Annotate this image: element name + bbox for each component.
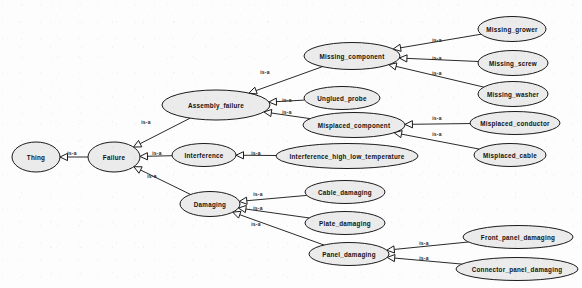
edge-label-front_panel_damaging-to-panel_damaging: is-a — [419, 240, 428, 246]
node-interference_hlt[interactable]: Interference_high_low_temperature — [276, 144, 418, 169]
edge-front_panel_damaging-to-panel_damaging — [394, 242, 468, 249]
isa-arrowhead-icon — [233, 211, 241, 218]
isa-arrowhead-icon — [405, 121, 413, 128]
node-misplaced_component[interactable]: Misplaced_component — [303, 113, 405, 138]
node-connector_panel_damaging[interactable]: Connector_panel_damaging — [456, 258, 578, 281]
node-missing_washer[interactable]: Missing_washer — [478, 82, 548, 107]
node-label-panel_damaging: Panel_damaging — [322, 251, 376, 259]
edge-label-interference-to-failure: is-a — [152, 150, 161, 156]
isa-arrowhead-icon — [236, 152, 244, 159]
edge-missing_screw-to-missing_component — [407, 58, 478, 61]
node-label-misplaced_cable: Misplaced_cable — [483, 152, 537, 160]
node-cable_damaging[interactable]: Cable_damaging — [305, 181, 385, 204]
node-front_panel_damaging[interactable]: Front_panel_damaging — [463, 226, 573, 249]
node-label-misplaced_component: Misplaced_component — [318, 122, 391, 130]
isa-arrowhead-icon — [140, 153, 148, 160]
node-damaging[interactable]: Damaging — [180, 192, 240, 217]
node-misplaced_cable[interactable]: Misplaced_cable — [474, 144, 546, 167]
node-missing_component[interactable]: Missing_component — [304, 43, 400, 70]
node-plate_damaging[interactable]: Plate_damaging — [305, 212, 385, 235]
node-label-misplaced_conductor: Misplaced_conductor — [480, 120, 550, 128]
node-misplaced_conductor[interactable]: Misplaced_conductor — [470, 112, 560, 135]
edge-label-panel_damaging-to-damaging: is-a — [251, 221, 260, 227]
node-failure[interactable]: Failure — [88, 142, 140, 172]
edge-label-cable_damaging-to-damaging: is-a — [253, 191, 262, 197]
node-missing_grower[interactable]: Missing_grower — [478, 17, 546, 42]
node-label-connector_panel_damaging: Connector_panel_damaging — [472, 266, 563, 274]
node-label-interference: Interference — [184, 152, 223, 159]
edge-label-missing_component-to-assembly_failure: is-a — [260, 69, 269, 75]
node-label-interference_hlt: Interference_high_low_temperature — [290, 153, 405, 161]
isa-arrowhead-icon — [134, 167, 142, 174]
isa-arrowhead-icon — [133, 140, 141, 147]
node-label-missing_component: Missing_component — [319, 53, 385, 61]
taxonomy-graph: ThingFailureAssembly_failureInterference… — [0, 0, 582, 288]
node-label-missing_washer: Missing_washer — [487, 91, 539, 99]
diagram-canvas: ThingFailureAssembly_failureInterference… — [0, 0, 582, 288]
edge-label-unglued_probe-to-assembly_failure: is-a — [282, 97, 291, 103]
node-label-unglued_probe: Unglued_probe — [317, 95, 367, 103]
edge-label-damaging-to-failure: is-a — [147, 173, 156, 179]
node-label-damaging: Damaging — [194, 201, 226, 209]
edge-label-misplaced_cable-to-misplaced_component: is-a — [432, 131, 441, 137]
node-label-plate_damaging: Plate_damaging — [319, 220, 371, 228]
node-label-assembly_failure: Assembly_failure — [188, 102, 244, 110]
node-label-cable_damaging: Cable_damaging — [318, 189, 372, 197]
node-label-front_panel_damaging: Front_panel_damaging — [481, 234, 555, 242]
node-label-failure: Failure — [103, 154, 126, 161]
edge-label-missing_washer-to-missing_component: is-a — [432, 70, 441, 76]
node-label-missing_grower: Missing_grower — [486, 26, 538, 34]
isa-arrowhead-icon — [399, 55, 407, 62]
edge-label-interference_hlt-to-interference: is-a — [251, 150, 260, 156]
node-unglued_probe[interactable]: Unglued_probe — [304, 87, 380, 110]
edge-label-plate_damaging-to-damaging: is-a — [253, 205, 262, 211]
edge-misplaced_conductor-to-misplaced_component — [412, 124, 470, 125]
nodes-layer: ThingFailureAssembly_failureInterference… — [12, 17, 578, 281]
node-missing_screw[interactable]: Missing_screw — [478, 51, 548, 76]
edge-label-failure-to-thing: is-a — [67, 150, 76, 156]
node-label-thing: Thing — [27, 154, 45, 162]
node-assembly_failure[interactable]: Assembly_failure — [162, 90, 270, 120]
node-label-missing_screw: Missing_screw — [489, 60, 537, 68]
node-panel_damaging[interactable]: Panel_damaging — [309, 243, 389, 266]
edge-label-assembly_failure-to-failure: is-a — [141, 119, 150, 125]
edge-label-missing_screw-to-missing_component: is-a — [432, 55, 441, 61]
edge-label-connector_panel_damaging-to-panel_damaging: is-a — [419, 255, 428, 261]
edge-label-missing_grower-to-missing_component: is-a — [432, 37, 441, 43]
isa-arrowhead-icon — [239, 197, 247, 204]
edge-label-misplaced_conductor-to-misplaced_component: is-a — [432, 115, 441, 121]
node-thing[interactable]: Thing — [12, 142, 60, 172]
edge-label-misplaced_component-to-assembly_failure: is-a — [282, 109, 291, 115]
node-interference[interactable]: Interference — [172, 144, 236, 167]
